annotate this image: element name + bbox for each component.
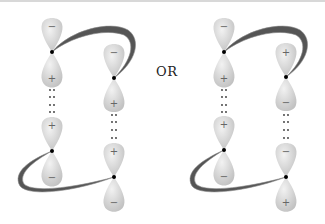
node-dot [50, 50, 54, 54]
left-diagram: − + + − − + [18, 18, 135, 212]
node-dot [50, 149, 54, 153]
p-orbital-right-lower: − + [275, 143, 296, 212]
sign-bottom: − [220, 171, 228, 182]
sign-bottom: − [282, 97, 290, 108]
p-orbital-left-upper: − + [41, 18, 62, 88]
node-dot [112, 76, 116, 80]
node-dot [222, 50, 226, 54]
p-orbital-right-upper: + − [275, 43, 296, 111]
or-label: OR [156, 64, 177, 79]
overlap-dots-left [49, 89, 55, 113]
node-dot [284, 75, 288, 79]
overlap-dots-right [283, 114, 289, 139]
lower-ribbon [190, 150, 286, 192]
p-orbital-left-lower: + − [213, 116, 234, 186]
sign-top: + [282, 47, 290, 58]
p-orbital-right-lower: + − [103, 143, 124, 212]
p-orbital-left-upper: − + [213, 18, 234, 88]
sign-bottom: − [110, 197, 118, 208]
sign-top: − [48, 21, 56, 32]
sign-top: + [220, 119, 228, 130]
p-orbital-right-upper: − + [103, 44, 124, 112]
sign-top: − [110, 47, 118, 58]
sign-bottom: − [48, 172, 56, 183]
sign-top: − [220, 21, 228, 32]
node-dot [222, 148, 226, 152]
sign-bottom: + [220, 73, 228, 84]
overlap-dots-left [221, 89, 227, 113]
sign-top: − [282, 146, 290, 157]
p-orbital-left-lower: + − [41, 117, 62, 187]
sign-top: + [110, 146, 118, 157]
node-dot [112, 175, 116, 179]
sign-top: + [48, 120, 56, 131]
lower-ribbon [18, 151, 114, 192]
node-dot [284, 175, 288, 179]
overlap-dots-right [111, 114, 117, 139]
sign-bottom: + [282, 197, 290, 208]
right-diagram: − + + − + − [190, 18, 307, 212]
sign-bottom: + [48, 73, 56, 84]
orbital-diagram-canvas: − + + − − + [0, 0, 325, 224]
sign-bottom: + [110, 98, 118, 109]
